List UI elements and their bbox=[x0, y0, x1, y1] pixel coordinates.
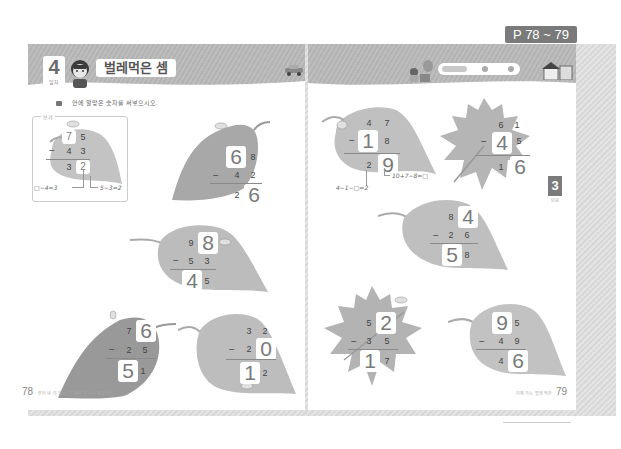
caterpillar-icon bbox=[214, 122, 228, 130]
header-wave-decoration bbox=[308, 75, 576, 89]
page-range-tag: P 78 ~ 79 bbox=[505, 26, 577, 43]
lesson-number-sub: 일차 bbox=[43, 78, 65, 85]
left-page: 4 일차 벌레먹은 셈 안에 알맞은 숫자를 써넣으시오. 보기 bbox=[28, 44, 305, 410]
example-sub-tens: 4 bbox=[64, 146, 74, 156]
chapter-tab-label: 단원 bbox=[548, 197, 562, 203]
answer-box[interactable]: 1 bbox=[358, 130, 378, 152]
answer-box[interactable]: 6 bbox=[510, 156, 530, 178]
hint-connector-right bbox=[90, 176, 98, 188]
answer-box[interactable]: 6 bbox=[508, 350, 528, 372]
lesson-title: 벌레먹은 셈 bbox=[96, 59, 176, 77]
answer-box[interactable]: 5 bbox=[118, 360, 138, 382]
footer-text-left: 받아 내 려 있는 (두 자리 수)-(두 자리 수) bbox=[38, 390, 112, 396]
answer-box[interactable]: 1 bbox=[360, 350, 380, 372]
answer-box[interactable]: 9 bbox=[492, 312, 512, 334]
minus-sign: − bbox=[172, 255, 180, 266]
example-top-tens: 7 bbox=[66, 131, 72, 142]
minus-sign: − bbox=[108, 344, 116, 355]
example-hint-right: 5−3=2 bbox=[100, 184, 122, 191]
car-icon bbox=[283, 64, 305, 76]
hint-connector-right bbox=[384, 168, 390, 176]
lesson-number: 4 bbox=[43, 56, 65, 78]
answer-box[interactable]: 6 bbox=[226, 146, 246, 168]
problem-leaf-R4 bbox=[322, 284, 426, 388]
answer-box[interactable]: 5 bbox=[442, 244, 462, 266]
child-avatar-icon bbox=[68, 58, 92, 88]
answer-box[interactable]: 2 bbox=[376, 312, 396, 334]
lesson-number-badge: 4 일차 bbox=[43, 56, 65, 90]
minus-sign: − bbox=[48, 145, 56, 156]
answer-box[interactable]: 8 bbox=[198, 232, 218, 254]
minus-sign: − bbox=[478, 336, 486, 347]
maple-leaf-icon bbox=[322, 284, 426, 388]
footer-text-right: 이해 가는 벌레 먹은 bbox=[516, 390, 552, 396]
divider bbox=[503, 422, 571, 423]
progress-pill bbox=[442, 66, 467, 72]
minus-sign: − bbox=[212, 170, 220, 181]
problem-leaf-L4 bbox=[178, 310, 296, 396]
problem-leaf-L3 bbox=[58, 306, 178, 400]
instruction-line: 안에 알맞은 숫자를 써넣으시오. bbox=[56, 98, 158, 107]
sum-line bbox=[226, 359, 276, 360]
minus-sign: − bbox=[228, 344, 236, 355]
page-number-left: 78 bbox=[22, 386, 33, 397]
caterpillar-icon bbox=[218, 238, 232, 246]
example-top-ones: 5 bbox=[78, 132, 88, 142]
caterpillar-icon bbox=[66, 120, 80, 128]
answer-box[interactable]: 0 bbox=[256, 338, 276, 360]
answer-box[interactable]: 4 bbox=[492, 132, 512, 154]
hint-connector-left bbox=[72, 170, 84, 188]
example-hint-left: □−4=3 bbox=[34, 184, 57, 191]
answer-box[interactable]: 4 bbox=[182, 270, 202, 292]
answer-box[interactable]: 1 bbox=[240, 362, 260, 384]
minus-sign: − bbox=[432, 230, 440, 241]
answer-box[interactable]: 6 bbox=[136, 320, 156, 342]
caterpillar-icon bbox=[394, 296, 408, 304]
leaf-icon bbox=[58, 306, 178, 400]
minus-sign: − bbox=[348, 135, 356, 146]
hint-right-R1: 10+7−8=□ bbox=[392, 172, 428, 179]
minus-sign: − bbox=[480, 136, 488, 147]
answer-box[interactable]: 4 bbox=[458, 206, 478, 228]
example-label: 보기 bbox=[41, 113, 55, 120]
chapter-tab[interactable]: 3 bbox=[548, 176, 562, 196]
caterpillar-icon bbox=[336, 120, 348, 130]
right-page: 4 7 − 1 8 2 9 4−1−□=2 10+7−8=□ 6 1 − 4 5 bbox=[308, 44, 576, 410]
progress-indicator bbox=[438, 63, 520, 75]
kids-with-balloon-icon bbox=[406, 60, 436, 82]
leaf-icon bbox=[178, 310, 296, 396]
caterpillar-icon bbox=[108, 310, 118, 320]
progress-dot bbox=[508, 66, 514, 72]
answer-box[interactable]: 6 bbox=[244, 184, 264, 206]
example-sub-ones: 3 bbox=[78, 146, 88, 156]
progress-dot bbox=[482, 66, 488, 72]
minus-sign: − bbox=[350, 336, 358, 347]
page-number-right: 79 bbox=[556, 386, 567, 397]
open-workbook: 4 일차 벌레먹은 셈 안에 알맞은 숫자를 써넣으시오. 보기 bbox=[28, 44, 616, 416]
hint-left-R1: 4−1−□=2 bbox=[336, 184, 368, 191]
house-icon bbox=[540, 60, 574, 80]
instruction-text: 안에 알맞은 숫자를 써넣으시오. bbox=[72, 99, 158, 106]
list-bullet-icon bbox=[56, 101, 62, 106]
